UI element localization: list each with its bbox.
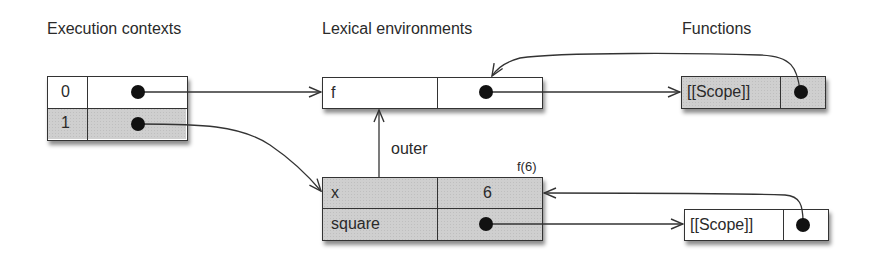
column-divider [783, 210, 784, 240]
function-object-square: [[Scope]] [684, 209, 829, 241]
binding-name-f: f [331, 84, 335, 102]
call-caption-f6: f(6) [517, 159, 537, 174]
heading-lexical-environments: Lexical environments [322, 20, 472, 38]
lexical-environment-global: f [322, 77, 543, 109]
execution-context-stack: 0 1 [47, 76, 188, 141]
row-divider [48, 108, 187, 109]
execution-context-index-1: 1 [61, 114, 70, 132]
column-divider [87, 77, 88, 140]
outer-link-label: outer [391, 140, 427, 158]
column-divider [437, 178, 438, 240]
column-divider [780, 77, 781, 108]
execution-context-index-0: 0 [61, 83, 70, 101]
row-divider [323, 208, 542, 209]
binding-name-square: square [331, 215, 380, 233]
function-square-scope-slot: [[Scope]] [690, 216, 753, 234]
heading-execution-contexts: Execution contexts [47, 20, 181, 38]
function-f-scope-slot: [[Scope]] [687, 83, 750, 101]
heading-functions: Functions [682, 20, 751, 38]
binding-name-x: x [331, 184, 339, 202]
function-object-f: [[Scope]] [681, 76, 826, 109]
binding-value-x: 6 [483, 184, 492, 202]
lexical-environment-f6: x 6 square [322, 177, 543, 241]
column-divider [437, 78, 438, 108]
